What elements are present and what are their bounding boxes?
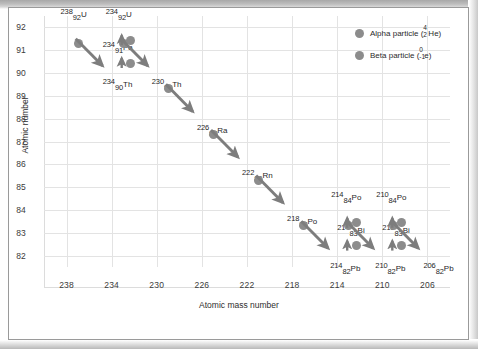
- legend-item-alpha: Alpha particle (42He): [355, 22, 441, 44]
- gridline-vertical: [202, 16, 203, 267]
- atomic-number: 84: [343, 196, 351, 205]
- beta-particle-dot: [397, 241, 406, 250]
- legend: Alpha particle (42He) Beta particle (0-1…: [355, 22, 441, 66]
- y-tick-label: 92: [0, 22, 26, 32]
- scan-shadow-bottom: [0, 339, 478, 349]
- y-tick-label: 83: [0, 228, 26, 238]
- atomic-number: 82: [342, 267, 350, 276]
- element-symbol: U: [81, 11, 87, 20]
- element-symbol: Th: [172, 80, 181, 89]
- mass-number: 210: [375, 261, 387, 270]
- x-tick-label: 206: [403, 280, 451, 290]
- element-symbol: Pb: [444, 264, 454, 273]
- legend-beta-label: Beta particle (: [370, 51, 419, 60]
- y-tick-label: 84: [0, 205, 26, 215]
- atomic-number: 82: [388, 267, 396, 276]
- alpha-element-symbol: He: [428, 29, 438, 38]
- nuclide-label-u234: 23492U: [106, 8, 132, 22]
- mass-number: 206: [423, 261, 435, 270]
- beta-particle-icon: [355, 51, 364, 60]
- element-symbol: Th: [123, 80, 132, 89]
- y-tick-label: 91: [0, 45, 26, 55]
- alpha-atomic-number: 2: [423, 32, 427, 39]
- x-axis-title: Atomic mass number: [0, 300, 478, 310]
- mass-number: 214: [331, 190, 343, 199]
- x-tick-label: 238: [43, 280, 91, 290]
- alpha-particle-dot: [209, 130, 218, 139]
- x-tick-label: 210: [358, 280, 406, 290]
- mass-number: 222: [242, 168, 254, 177]
- mass-number: 226: [197, 123, 209, 132]
- y-tick-label: 82: [0, 251, 26, 261]
- atomic-number: 83: [349, 229, 357, 238]
- beta-atomic-number: -1: [419, 54, 425, 61]
- mass-number: 234: [103, 77, 115, 86]
- beta-particle-dot: [352, 241, 361, 250]
- element-symbol: Po: [397, 193, 407, 202]
- mass-number: 234: [106, 7, 118, 16]
- element-symbol: U: [126, 11, 132, 20]
- scan-shadow-right: [468, 0, 478, 349]
- x-tick-label: 234: [88, 280, 136, 290]
- alpha-paren-close: ): [439, 29, 442, 38]
- nuclide-label-pb206: 20682Pb: [423, 262, 453, 276]
- x-tick-label: 214: [313, 280, 361, 290]
- atomic-number: 91: [115, 47, 123, 56]
- y-tick-label: 85: [0, 182, 26, 192]
- gridline-vertical: [157, 16, 158, 267]
- x-tick-label: 218: [268, 280, 316, 290]
- x-tick-label: 230: [133, 280, 181, 290]
- mass-number: 238: [61, 7, 73, 16]
- element-symbol: Ra: [217, 126, 227, 135]
- mass-number: 230: [152, 77, 164, 86]
- alpha-nuclide-notation: 42: [423, 29, 429, 37]
- element-symbol: Rn: [262, 171, 272, 180]
- mass-number: 218: [287, 214, 299, 223]
- beta-nuclide-notation: 0-1: [419, 51, 425, 59]
- element-symbol: Pb: [351, 264, 361, 273]
- alpha-particle-dot: [254, 176, 263, 185]
- legend-alpha-label: Alpha particle (: [370, 29, 423, 38]
- mass-number: 234: [103, 40, 115, 49]
- mass-number: 214: [330, 261, 342, 270]
- alpha-particle-dot: [119, 39, 128, 48]
- element-symbol: Po: [352, 193, 362, 202]
- element-symbol: Bi: [358, 226, 365, 235]
- nuclide-label-u238: 23892U: [61, 8, 87, 22]
- atomic-number: 82: [436, 267, 444, 276]
- atomic-number: 90: [115, 83, 123, 92]
- nuclide-label-po210: 21084Po: [376, 191, 406, 205]
- y-axis-title: Atomic number: [20, 70, 30, 180]
- gridline-vertical: [292, 16, 293, 267]
- element-symbol: Pb: [396, 264, 406, 273]
- gridline-vertical: [247, 16, 248, 267]
- x-tick-label: 226: [178, 280, 226, 290]
- legend-item-beta: Beta particle (0-1e): [355, 44, 441, 66]
- nuclide-label-th234: 23490Th: [103, 78, 133, 92]
- element-symbol: Po: [307, 217, 317, 226]
- decay-series-figure: 9291908988878685848382 23823423022622221…: [0, 0, 478, 349]
- nuclide-label-pb210: 21082Pb: [375, 262, 405, 276]
- x-tick-label: 222: [223, 280, 271, 290]
- beta-particle-dot: [126, 59, 135, 68]
- element-symbol: Bi: [403, 226, 410, 235]
- alpha-particle-icon: [355, 29, 364, 38]
- gridline-vertical: [67, 16, 68, 267]
- beta-paren-close: ): [429, 51, 432, 60]
- atomic-number: 92: [73, 14, 81, 23]
- atomic-number: 84: [389, 196, 397, 205]
- mass-number: 210: [376, 190, 388, 199]
- nuclide-label-pb214: 21482Pb: [330, 262, 360, 276]
- atomic-number: 92: [118, 14, 126, 23]
- nuclide-label-po214: 21484Po: [331, 191, 361, 205]
- alpha-particle-dot: [74, 39, 83, 48]
- atomic-number: 83: [395, 229, 403, 238]
